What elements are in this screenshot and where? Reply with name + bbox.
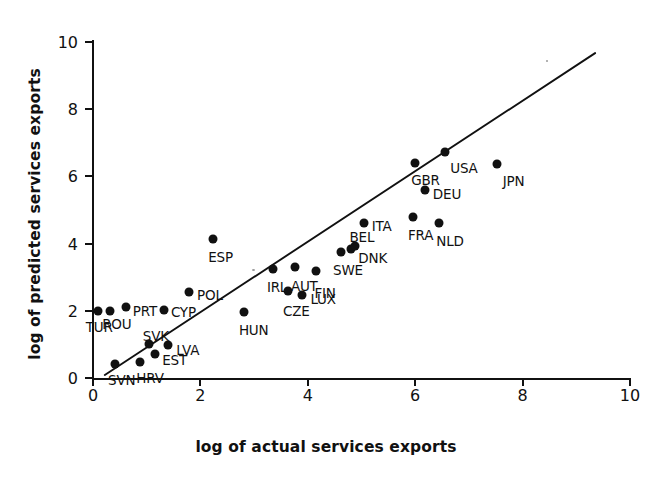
data-point-nld — [435, 219, 444, 228]
data-point-label-hun: HUN — [239, 322, 269, 338]
data-point-label-usa: USA — [450, 160, 477, 176]
data-point-label-lva: LVA — [176, 342, 199, 358]
data-point-gbr — [411, 158, 420, 167]
data-point-label-esp: ESP — [208, 249, 233, 265]
data-point-esp — [209, 234, 218, 243]
x-axis-tick-label: 6 — [395, 386, 435, 405]
x-axis-title: log of actual services exports — [0, 438, 652, 456]
x-axis-tick — [414, 378, 416, 386]
y-axis-tick — [85, 41, 93, 43]
data-point-hun — [239, 307, 248, 316]
data-point-label-deu: DEU — [433, 186, 461, 202]
x-axis-tick — [199, 378, 201, 386]
data-point-label-prt: PRT — [133, 303, 157, 319]
x-axis-tick — [307, 378, 309, 386]
data-point-fra — [409, 213, 418, 222]
data-point-lux — [298, 291, 307, 300]
paper-speck — [252, 269, 255, 271]
x-axis-tick — [629, 378, 631, 386]
y-axis-tick-label: 2 — [48, 301, 78, 320]
data-point-swe — [337, 247, 346, 256]
data-point-usa — [441, 148, 450, 157]
data-point-jpn — [492, 159, 501, 168]
y-axis-title: log of predicted services exports — [26, 49, 44, 379]
data-point-svn — [111, 359, 120, 368]
x-axis-tick-label: 4 — [288, 386, 328, 405]
data-point-ita — [359, 219, 368, 228]
data-point-label-nld: NLD — [436, 233, 463, 249]
data-point-aut — [290, 262, 299, 271]
x-axis-tick-label: 8 — [503, 386, 543, 405]
y-axis-tick-label: 4 — [48, 234, 78, 253]
data-point-fin — [312, 266, 321, 275]
x-axis-tick — [522, 378, 524, 386]
y-axis-tick — [85, 108, 93, 110]
x-axis-line — [92, 378, 631, 380]
data-point-label-dnk: DNK — [358, 250, 387, 266]
data-point-lva — [164, 341, 173, 350]
y-axis-tick-label: 10 — [48, 33, 78, 52]
data-point-pol — [185, 287, 194, 296]
data-point-est — [151, 350, 160, 359]
scatter-plot-figure: 02468100246810 TURROUPRTSVNHRVSVKESTLVAC… — [0, 0, 652, 485]
y-axis-tick — [85, 175, 93, 177]
data-point-label-bel: BEL — [350, 229, 375, 245]
y-axis-tick — [85, 310, 93, 312]
data-point-label-ita: ITA — [372, 218, 392, 234]
data-point-label-svn: SVN — [108, 372, 135, 388]
y-axis-tick-label: 0 — [48, 369, 78, 388]
y-axis-tick-label: 6 — [48, 167, 78, 186]
data-point-label-cze: CZE — [283, 303, 310, 319]
data-point-deu — [420, 185, 429, 194]
data-point-label-cyp: CYP — [171, 304, 196, 320]
data-point-prt — [121, 302, 130, 311]
x-axis-tick — [92, 378, 94, 386]
data-point-label-rou: ROU — [102, 316, 131, 332]
data-point-tur — [93, 306, 102, 315]
data-point-label-hrv: HRV — [136, 370, 163, 386]
data-point-cyp — [159, 305, 168, 314]
regression-line — [0, 0, 652, 485]
data-point-hrv — [136, 357, 145, 366]
x-axis-tick-label: 0 — [73, 386, 113, 405]
x-axis-tick-label: 10 — [610, 386, 650, 405]
data-point-label-jpn: JPN — [503, 173, 525, 189]
data-point-rou — [106, 306, 115, 315]
paper-speck — [546, 60, 548, 62]
x-axis-tick-label: 2 — [180, 386, 220, 405]
data-point-label-pol: POL — [197, 287, 223, 303]
data-point-label-fra: FRA — [408, 227, 433, 243]
y-axis-tick — [85, 243, 93, 245]
y-axis-tick-label: 8 — [48, 100, 78, 119]
data-point-irl — [268, 264, 277, 273]
data-point-label-fin: FIN — [314, 285, 335, 301]
